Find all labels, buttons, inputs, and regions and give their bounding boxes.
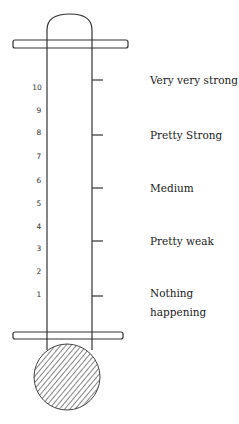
scale-number: 6 — [37, 176, 42, 185]
anchor-label-line: Very very strong — [150, 71, 238, 90]
anchor-label-line: Pretty weak — [150, 232, 214, 251]
anchor-label: Medium — [150, 179, 194, 198]
scale-number: 4 — [37, 222, 42, 231]
scale-number: 2 — [37, 267, 42, 276]
anchor-label: Pretty weak — [150, 232, 214, 251]
anchor-label: Pretty Strong — [150, 126, 222, 145]
anchor-label-line: Pretty Strong — [150, 126, 222, 145]
scale-number: 10 — [32, 83, 42, 92]
anchor-label: Very very strong — [150, 71, 238, 90]
thermometer-diagram — [0, 0, 239, 424]
anchor-label-line: happening — [150, 303, 206, 322]
anchor-label: Nothinghappening — [150, 284, 206, 322]
scale-number: 7 — [37, 152, 42, 161]
scale-number: 3 — [37, 244, 42, 253]
scale-number: 1 — [37, 290, 42, 299]
top-crossbar — [13, 40, 128, 48]
anchor-label-line: Nothing — [150, 284, 206, 303]
scale-number: 8 — [37, 128, 42, 137]
scale-number: 5 — [37, 199, 42, 208]
scale-ticks — [92, 80, 103, 296]
scale-number: 9 — [37, 106, 42, 115]
bottom-crossbar — [13, 332, 123, 339]
anchor-label-line: Medium — [150, 179, 194, 198]
thermometer-dome — [47, 14, 92, 30]
thermometer-bulb — [30, 343, 105, 413]
